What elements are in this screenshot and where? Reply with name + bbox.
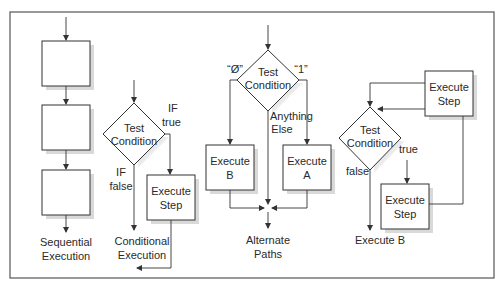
true-label: true	[399, 143, 418, 155]
arrow-down-icon	[370, 83, 425, 106]
conditional-caption: Execution	[118, 249, 166, 261]
branch-label-zero: “Ø”	[227, 63, 243, 75]
branch-label-one: “1”	[294, 63, 308, 75]
execute-b-box	[206, 145, 254, 190]
flowchart-canvas: Sequential Execution Test Condition IF t…	[0, 0, 502, 288]
decision-label: Test	[124, 122, 144, 134]
top-execute-step-box	[425, 71, 473, 116]
alternate-paths-diagram: Test Condition “Ø” “1” Anything Else Exe…	[206, 25, 335, 260]
sequential-step-box-2	[42, 105, 90, 150]
execute-b-exit-label: Execute B	[355, 234, 405, 246]
sequential-caption: Execution	[42, 250, 90, 262]
conditional-caption: Conditional	[114, 235, 169, 247]
execute-b-label: B	[226, 169, 233, 181]
sequential-caption: Sequential	[40, 236, 92, 248]
conditional-execution-diagram: Test Condition IF true IF false Execute …	[103, 80, 199, 268]
execute-a-label: A	[303, 169, 311, 181]
execute-step-label: Execute	[385, 194, 425, 206]
loop-back-line	[429, 116, 463, 204]
anything-else-label: Else	[271, 123, 292, 135]
decision-label: Test	[258, 66, 278, 78]
decision-label: Condition	[111, 135, 157, 147]
if-true-label: IF	[168, 102, 178, 114]
execute-step-label: Step	[438, 95, 461, 107]
execute-a-label: Execute	[287, 155, 327, 167]
execute-step-label: Execute	[151, 185, 191, 197]
sequential-step-box-3	[42, 170, 90, 215]
execute-step-label: Execute	[429, 81, 469, 93]
sequential-execution-diagram: Sequential Execution	[40, 17, 94, 262]
loop-diagram: Execute Step Test Condition true false E…	[339, 71, 477, 246]
execute-step-label: Step	[394, 208, 417, 220]
sequential-step-box-1	[42, 41, 90, 86]
execute-step-box	[147, 175, 195, 220]
decision-label: Test	[360, 124, 380, 136]
anything-else-label: Anything	[270, 110, 313, 122]
decision-diamond	[103, 103, 165, 165]
execute-a-box	[283, 145, 331, 190]
false-label: false	[346, 165, 369, 177]
alternate-caption: Paths	[254, 248, 283, 260]
execute-b-label: Execute	[210, 155, 250, 167]
if-true-label: true	[162, 116, 181, 128]
if-false-label: false	[109, 180, 132, 192]
if-false-label: IF	[116, 166, 126, 178]
decision-label: Condition	[245, 79, 291, 91]
alternate-caption: Alternate	[246, 234, 290, 246]
decision-label: Condition	[347, 137, 393, 149]
arrow-down-icon	[230, 80, 237, 144]
execute-step-label: Step	[160, 199, 183, 211]
bottom-execute-step-box	[381, 184, 429, 229]
